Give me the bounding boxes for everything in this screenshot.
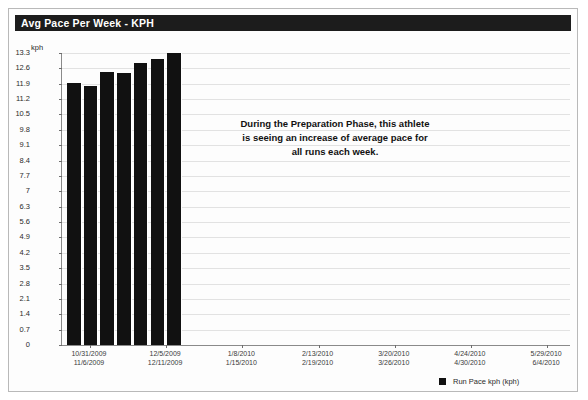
y-axis-tick-label: 2.8 bbox=[20, 280, 30, 288]
y-axis-tick-mark bbox=[59, 284, 62, 285]
y-axis-tick-label: 8.4 bbox=[20, 157, 30, 165]
y-axis-tick-mark bbox=[59, 130, 62, 131]
x-axis-tick-label-start: 1/8/2010 bbox=[211, 349, 271, 358]
x-axis-tick-mark bbox=[471, 345, 472, 348]
y-axis-tick-mark bbox=[59, 68, 62, 69]
chart-window: Avg Pace Per Week - KPH kph 13.312.611.9… bbox=[8, 8, 578, 392]
x-axis-tick-label: 2/13/20102/19/2010 bbox=[288, 349, 348, 367]
y-axis-tick-mark bbox=[59, 299, 62, 300]
y-axis-tick-mark bbox=[59, 253, 62, 254]
x-axis-tick-label-end: 1/15/2010 bbox=[211, 358, 271, 367]
bar[interactable] bbox=[167, 53, 182, 345]
y-axis-tick-mark bbox=[59, 268, 62, 269]
y-axis-tick-label: 7 bbox=[26, 187, 30, 195]
bar[interactable] bbox=[100, 72, 115, 345]
y-axis-tick-mark bbox=[59, 53, 62, 54]
x-axis-tick-label-start: 3/20/2010 bbox=[364, 349, 424, 358]
y-axis-tick-label: 0 bbox=[26, 341, 30, 349]
x-axis-tick-mark bbox=[319, 345, 320, 348]
y-axis-tick-label: 12.6 bbox=[15, 64, 30, 72]
y-axis-tick-label: 7.7 bbox=[20, 172, 30, 180]
y-axis-tick-label: 9.1 bbox=[20, 141, 30, 149]
x-axis-tick-label: 12/5/200912/11/2009 bbox=[135, 349, 195, 367]
y-axis-tick-label: 9.8 bbox=[20, 126, 30, 134]
x-axis-tick-label: 5/29/20106/4/2010 bbox=[516, 349, 576, 367]
x-axis-tick-label: 4/24/20104/30/2010 bbox=[440, 349, 500, 367]
legend-label: Run Pace kph (kph) bbox=[453, 377, 519, 386]
chart-title-bar: Avg Pace Per Week - KPH bbox=[15, 15, 571, 31]
plot-area: 13.312.611.911.210.59.89.18.47.776.35.64… bbox=[61, 53, 570, 346]
x-axis-tick-mark bbox=[547, 345, 548, 348]
y-axis-tick-label: 4.9 bbox=[20, 233, 30, 241]
bar[interactable] bbox=[134, 63, 149, 345]
y-axis-tick-mark bbox=[59, 237, 62, 238]
y-axis-tick-mark bbox=[59, 191, 62, 192]
y-axis-tick-mark bbox=[59, 176, 62, 177]
bar[interactable] bbox=[84, 86, 99, 345]
y-axis-tick-mark bbox=[59, 345, 62, 346]
legend-swatch-icon bbox=[439, 378, 446, 385]
x-axis-tick-mark bbox=[166, 345, 167, 348]
chart-legend: Run Pace kph (kph) bbox=[439, 377, 519, 386]
x-axis-tick-label-end: 11/6/2009 bbox=[59, 358, 119, 367]
chart-annotation: During the Preparation Phase, this athle… bbox=[237, 117, 433, 159]
bar[interactable] bbox=[117, 73, 132, 345]
x-axis-tick-label-start: 12/5/2009 bbox=[135, 349, 195, 358]
bar[interactable] bbox=[67, 83, 82, 345]
x-axis-tick-label-start: 4/24/2010 bbox=[440, 349, 500, 358]
y-axis-tick-label: 3.5 bbox=[20, 264, 30, 272]
x-axis-tick-label-start: 10/31/2009 bbox=[59, 349, 119, 358]
y-axis-tick-mark bbox=[59, 330, 62, 331]
y-axis-tick-mark bbox=[59, 114, 62, 115]
y-axis-tick-mark bbox=[59, 145, 62, 146]
x-axis-tick-label-start: 2/13/2010 bbox=[288, 349, 348, 358]
y-axis-tick-label: 1.4 bbox=[20, 310, 30, 318]
x-axis-tick-label: 1/8/20101/15/2010 bbox=[211, 349, 271, 367]
y-axis-tick-label: 13.3 bbox=[15, 49, 30, 57]
y-axis-tick-label: 0.7 bbox=[20, 326, 30, 334]
y-axis-tick-label: 11.2 bbox=[16, 95, 30, 103]
y-axis-tick-label: 10.5 bbox=[15, 110, 30, 118]
x-axis-tick-label-end: 4/30/2010 bbox=[440, 358, 500, 367]
y-axis-tick-mark bbox=[59, 99, 62, 100]
y-axis-tick-mark bbox=[59, 207, 62, 208]
y-axis-tick-mark bbox=[59, 222, 62, 223]
y-axis-tick-label: 2.1 bbox=[20, 295, 30, 303]
x-axis-tick-mark bbox=[242, 345, 243, 348]
gridline bbox=[62, 53, 570, 54]
y-axis-unit-label: kph bbox=[31, 43, 43, 52]
x-axis-tick-label-end: 2/19/2010 bbox=[288, 358, 348, 367]
x-axis-tick-label-end: 6/4/2010 bbox=[516, 358, 576, 367]
bar[interactable] bbox=[151, 59, 166, 346]
y-axis-tick-label: 6.3 bbox=[20, 203, 30, 211]
y-axis-tick-mark bbox=[59, 84, 62, 85]
y-axis-tick-label: 4.2 bbox=[20, 249, 30, 257]
x-axis-tick-label-start: 5/29/2010 bbox=[516, 349, 576, 358]
y-axis-tick-label: 5.6 bbox=[20, 218, 30, 226]
x-axis-tick-mark bbox=[395, 345, 396, 348]
x-axis-tick-mark bbox=[90, 345, 91, 348]
x-axis-tick-label-end: 3/26/2010 bbox=[364, 358, 424, 367]
y-axis-tick-label: 11.9 bbox=[16, 80, 30, 88]
x-axis-tick-label: 10/31/200911/6/2009 bbox=[59, 349, 119, 367]
y-axis-tick-mark bbox=[59, 314, 62, 315]
x-axis-tick-label: 3/20/20103/26/2010 bbox=[364, 349, 424, 367]
x-axis-tick-label-end: 12/11/2009 bbox=[135, 358, 195, 367]
y-axis-tick-mark bbox=[59, 161, 62, 162]
